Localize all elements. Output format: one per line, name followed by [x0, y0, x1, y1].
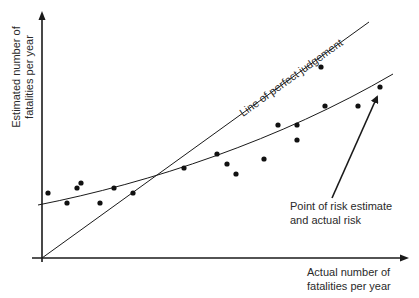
data-point [233, 171, 238, 176]
data-point [74, 185, 79, 190]
x-axis-arrow-icon [400, 255, 409, 262]
x-axis-label-line2: fatalities per year [307, 280, 391, 292]
data-point [64, 200, 69, 205]
best-fit-curve [38, 74, 393, 205]
data-point [322, 103, 327, 108]
data-point [45, 190, 50, 195]
y-axis-label-line2: fatalities per year [23, 35, 35, 119]
data-point [111, 185, 116, 190]
x-axis [32, 255, 409, 262]
y-axis-arrow-icon [39, 11, 46, 20]
risk-perception-chart: Line of perfect judgement Point of risk … [0, 0, 419, 298]
data-point [97, 200, 102, 205]
data-point [261, 156, 266, 161]
data-points [45, 64, 382, 205]
data-point [355, 103, 360, 108]
data-point [214, 151, 219, 156]
data-point [294, 137, 299, 142]
data-point [78, 180, 83, 185]
annotation-label-line2: and actual risk [290, 214, 361, 226]
y-axis-label-line1: Estimated number of [10, 25, 22, 127]
data-point [318, 64, 323, 69]
data-point [275, 122, 280, 127]
annotation-label-line1: Point of risk estimate [290, 200, 392, 212]
highlighted-data-point [377, 84, 382, 89]
data-point [181, 165, 186, 170]
data-point [294, 122, 299, 127]
x-axis-label-line1: Actual number of [307, 266, 391, 278]
data-point [224, 161, 229, 166]
y-axis [39, 11, 46, 262]
annotation-arrow [332, 97, 377, 198]
perfect-judgement-label: Line of perfect judgement [237, 36, 345, 118]
data-point [130, 190, 135, 195]
